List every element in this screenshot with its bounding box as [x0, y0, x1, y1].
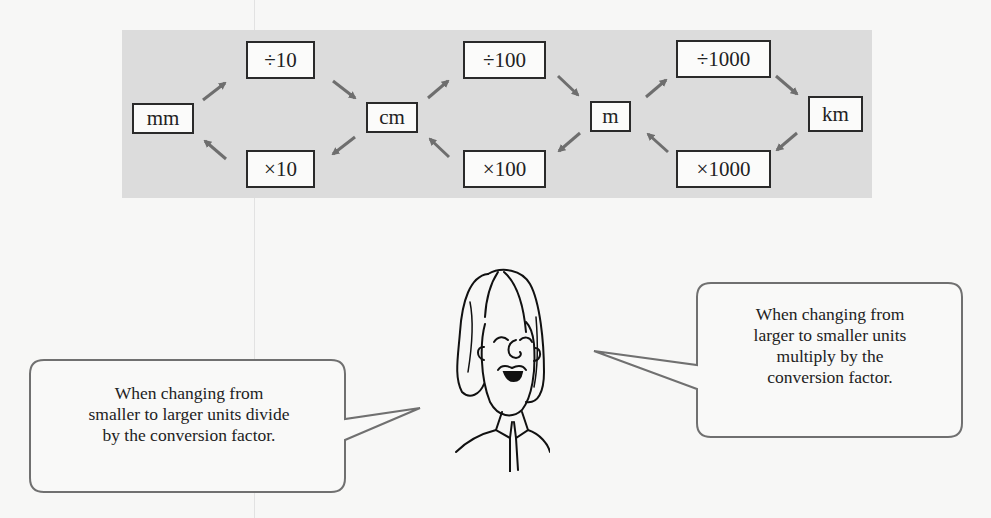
bubble-line: When changing from [34, 383, 344, 404]
bubble-line: When changing from [700, 304, 960, 325]
right-bubble-text: When changing from larger to smaller uni… [700, 304, 960, 388]
bubble-line: larger to smaller units [700, 325, 960, 346]
teacher-character-illustration [440, 262, 550, 472]
left-bubble-text: When changing from smaller to larger uni… [34, 383, 344, 446]
bubble-line: by the conversion factor. [34, 425, 344, 446]
bubble-line: smaller to larger units divide [34, 404, 344, 425]
bubble-line: conversion factor. [700, 367, 960, 388]
bubble-line: multiply by the [700, 346, 960, 367]
